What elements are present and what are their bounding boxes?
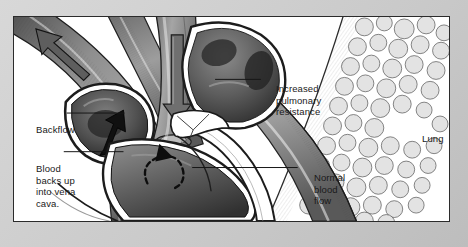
anatomy-illustration bbox=[14, 17, 449, 221]
label-lung: Lung bbox=[422, 133, 444, 145]
label-normal-blood-flow: Normal blood flow bbox=[314, 172, 345, 207]
label-increased-pulmonary-resistance: Increased pulmonary resistance bbox=[276, 83, 321, 118]
label-backflow: Backflow bbox=[36, 124, 75, 136]
figure-root: Backflow Blood backs up into vena cava. … bbox=[0, 0, 468, 247]
illustration-panel: Backflow Blood backs up into vena cava. … bbox=[13, 16, 450, 222]
label-blood-backs-up-into-vena-cava: Blood backs up into vena cava. bbox=[36, 163, 75, 209]
